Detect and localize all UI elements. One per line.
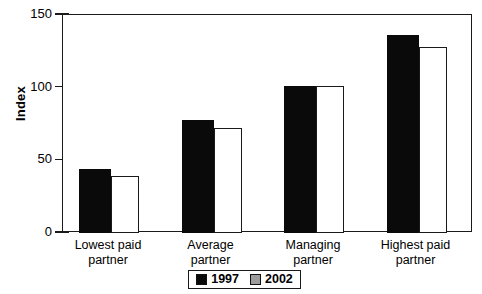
y-axis-tick-label: 150 [16,7,52,20]
x-axis-category-label: Managing partner [258,238,368,267]
bar-2002 [316,86,344,233]
bar-chart: Index 050100150 Lowest paid partnerAvera… [0,0,482,294]
bar-1997 [387,35,419,233]
y-axis-tick-label: 50 [16,152,52,165]
bar-1997 [79,169,111,233]
x-axis-category-label: Lowest paid partner [53,238,163,267]
y-axis-title: Index [13,64,28,144]
legend-label-1997: 1997 [211,273,239,286]
chart-legend: 1997 2002 [188,270,301,289]
bar-2002 [111,176,139,233]
plot-area [62,14,472,232]
bar-2002 [419,47,447,233]
black-square-swatch [196,274,207,285]
bar-1997 [182,120,214,233]
x-axis-category-label: Average partner [156,238,266,267]
bar-1997 [284,86,316,233]
gray-square-swatch [250,274,261,285]
bar-2002 [214,128,242,233]
y-axis-tick-label: 100 [16,80,52,93]
legend-item-1997: 1997 [196,273,239,286]
legend-item-2002: 2002 [250,273,293,286]
y-axis-tick-label: 0 [16,225,52,238]
x-axis-category-label: Highest paid partner [361,238,471,267]
legend-label-2002: 2002 [265,273,293,286]
